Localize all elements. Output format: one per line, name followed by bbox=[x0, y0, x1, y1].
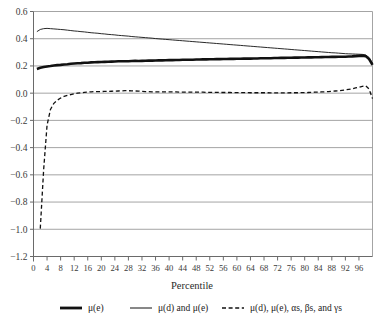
x-tick-label: 16 bbox=[83, 263, 92, 273]
legend-label: μ(e) bbox=[88, 303, 104, 314]
y-tick-label: −0.8 bbox=[10, 197, 27, 207]
x-tick-label: 64 bbox=[246, 263, 255, 273]
x-tick-label: 72 bbox=[273, 263, 282, 273]
line-chart: 0.60.40.20.0−0.2−0.4−0.6−0.8−1.0−1.2 048… bbox=[0, 0, 379, 321]
y-tick-label: 0.2 bbox=[16, 61, 28, 71]
x-tick-label: 80 bbox=[300, 263, 309, 273]
legend-label: μ(d), μ(e), αs, βs, and γs bbox=[250, 303, 342, 314]
x-tick-label: 0 bbox=[31, 263, 35, 273]
x-tick-label: 68 bbox=[260, 263, 269, 273]
x-tick-label: 12 bbox=[70, 263, 79, 273]
x-tick-label: 32 bbox=[138, 263, 147, 273]
x-tick-label: 56 bbox=[219, 263, 228, 273]
y-tick-label: −1.0 bbox=[10, 225, 27, 235]
x-tick-label: 84 bbox=[314, 263, 323, 273]
x-tick-label: 20 bbox=[97, 263, 106, 273]
chart-legend: μ(e)μ(d) and μ(e)μ(d), μ(e), αs, βs, and… bbox=[60, 303, 342, 314]
y-tick-label: 0.4 bbox=[16, 34, 28, 44]
x-tick-label: 4 bbox=[45, 263, 50, 273]
x-tick-label: 76 bbox=[287, 263, 296, 273]
x-tick-label: 40 bbox=[165, 263, 174, 273]
x-tick-label: 96 bbox=[355, 263, 364, 273]
x-tick-label: 88 bbox=[328, 263, 337, 273]
x-tick-label: 8 bbox=[58, 263, 62, 273]
legend-label: μ(d) and μ(e) bbox=[158, 303, 208, 314]
x-tick-label: 48 bbox=[192, 263, 201, 273]
x-tick-label: 24 bbox=[111, 263, 120, 273]
y-tick-label: −1.2 bbox=[10, 252, 27, 262]
y-tick-label: −0.2 bbox=[10, 116, 27, 126]
x-tick-label: 60 bbox=[233, 263, 242, 273]
y-tick-label: −0.6 bbox=[10, 170, 27, 180]
y-tick-label: 0.6 bbox=[16, 7, 28, 17]
x-axis-title: Percentile bbox=[171, 280, 213, 291]
y-tick-label: 0.0 bbox=[16, 89, 28, 99]
chart-container: 0.60.40.20.0−0.2−0.4−0.6−0.8−1.0−1.2 048… bbox=[0, 0, 379, 321]
x-tick-label: 44 bbox=[178, 263, 187, 273]
chart-background bbox=[0, 0, 379, 321]
x-tick-label: 36 bbox=[151, 263, 160, 273]
y-tick-label: −0.4 bbox=[10, 143, 27, 153]
x-tick-label: 52 bbox=[205, 263, 214, 273]
x-tick-label: 92 bbox=[341, 263, 350, 273]
x-tick-label: 28 bbox=[124, 263, 133, 273]
